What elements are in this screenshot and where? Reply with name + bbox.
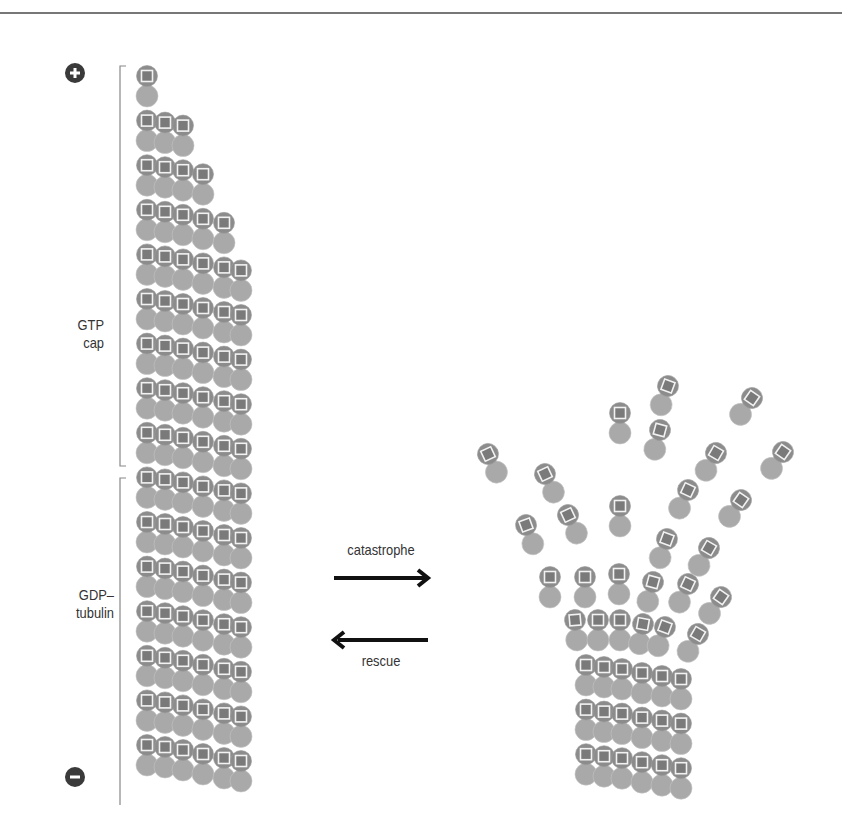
tubulin-dimer bbox=[563, 609, 589, 652]
tubulin-dimer bbox=[230, 438, 252, 480]
tubulin-dimer bbox=[192, 387, 214, 429]
tubulin-dimer bbox=[651, 755, 673, 797]
shrinking-microtubule bbox=[474, 372, 798, 799]
tubulin-dimer bbox=[230, 706, 252, 748]
tubulin-dimer bbox=[474, 440, 511, 487]
tubulin-dimer bbox=[670, 713, 692, 755]
tubulin-dimer bbox=[172, 517, 194, 559]
catastrophe-label: catastrophe bbox=[334, 541, 429, 558]
tubulin-dimer bbox=[192, 654, 214, 696]
gtp-cap-label-line2: cap bbox=[49, 334, 104, 352]
tubulin-dimer bbox=[670, 669, 692, 711]
tubulin-dimer bbox=[172, 606, 194, 648]
tubulin-dimer bbox=[531, 460, 568, 507]
tubulin-dimer bbox=[192, 342, 214, 384]
tubulin-dimer bbox=[691, 438, 731, 485]
tubulin-dimer bbox=[172, 740, 194, 782]
tubulin-dimer bbox=[213, 212, 235, 254]
tubulin-dimer bbox=[192, 521, 214, 563]
tubulin-dimer bbox=[172, 294, 194, 336]
tubulin-dimer bbox=[611, 703, 633, 745]
minus-end-icon bbox=[65, 767, 85, 787]
tubulin-dimer bbox=[230, 751, 252, 793]
tubulin-dimer bbox=[192, 208, 214, 250]
tubulin-dimer bbox=[192, 298, 214, 340]
tubulin-dimer bbox=[192, 610, 214, 652]
growing-microtubule bbox=[136, 66, 252, 793]
tubulin-dimer bbox=[172, 249, 194, 291]
tubulin-dimer bbox=[230, 349, 252, 391]
tubulin-dimer bbox=[714, 485, 756, 532]
tubulin-dimer bbox=[609, 403, 631, 445]
tubulin-dimer bbox=[192, 164, 214, 206]
gdp-tubulin-label-line2: tubulin bbox=[42, 604, 114, 622]
tubulin-dimer bbox=[230, 260, 252, 302]
tubulin-dimer bbox=[641, 417, 673, 463]
tubulin-dimer bbox=[631, 752, 653, 794]
tubulin-dimer bbox=[665, 570, 702, 617]
gtp-cap-label: GTP cap bbox=[49, 316, 104, 352]
tubulin-dimer bbox=[230, 617, 252, 659]
rescue-label: rescue bbox=[334, 652, 429, 669]
tubulin-dimer bbox=[651, 666, 673, 708]
tubulin-dimer bbox=[609, 610, 631, 652]
gtp-cap-label-line1: GTP bbox=[49, 316, 104, 334]
tubulin-dimer bbox=[539, 567, 561, 609]
tubulin-dimer bbox=[192, 699, 214, 741]
tubulin-dimer bbox=[172, 650, 194, 692]
tubulin-dimer bbox=[230, 483, 252, 525]
tubulin-dimer bbox=[172, 383, 194, 425]
tubulin-dimer bbox=[192, 253, 214, 295]
tubulin-dimer bbox=[554, 501, 591, 548]
tubulin-dimer bbox=[230, 305, 252, 347]
tubulin-dimer bbox=[670, 758, 692, 800]
tubulin-dimer bbox=[673, 619, 713, 666]
tubulin-dimer bbox=[230, 394, 252, 436]
tubulin-dimer bbox=[172, 338, 194, 380]
tubulin-dimer bbox=[631, 707, 653, 749]
tubulin-dimer bbox=[172, 160, 194, 202]
tubulin-dimer bbox=[172, 695, 194, 737]
tubulin-dimer bbox=[587, 610, 609, 652]
tubulin-dimer bbox=[608, 564, 630, 606]
tubulin-dimer bbox=[230, 572, 252, 614]
tubulin-dimer bbox=[611, 748, 633, 790]
tubulin-dimer bbox=[172, 427, 194, 469]
tubulin-dimer bbox=[574, 567, 596, 609]
tubulin-dimer bbox=[611, 659, 633, 701]
tubulin-dimer bbox=[172, 561, 194, 603]
tubulin-dimer bbox=[230, 528, 252, 570]
tubulin-dimer bbox=[230, 661, 252, 703]
tubulin-dimer bbox=[631, 663, 653, 705]
gdp-tubulin-bracket bbox=[120, 478, 126, 805]
gtp-cap-bracket bbox=[120, 66, 126, 466]
tubulin-dimer bbox=[647, 372, 682, 419]
tubulin-dimer bbox=[609, 496, 631, 538]
tubulin-dimer bbox=[136, 66, 158, 108]
plus-end-icon bbox=[65, 63, 85, 83]
catastrophe-arrow bbox=[334, 570, 428, 586]
tubulin-dimer bbox=[512, 511, 547, 558]
tubulin-dimer bbox=[651, 710, 673, 752]
gdp-tubulin-label-line1: GDP– bbox=[42, 586, 114, 604]
tubulin-dimer bbox=[192, 476, 214, 518]
tubulin-dimer bbox=[634, 569, 666, 615]
gdp-tubulin-label: GDP– tubulin bbox=[42, 586, 114, 622]
diagram-canvas bbox=[0, 0, 842, 830]
tubulin-dimer bbox=[694, 582, 736, 629]
tubulin-dimer bbox=[192, 565, 214, 607]
tubulin-dimer bbox=[756, 437, 798, 484]
tubulin-dimer bbox=[192, 744, 214, 786]
rescue-arrow bbox=[334, 632, 428, 648]
tubulin-dimer bbox=[172, 115, 194, 157]
tubulin-dimer bbox=[725, 383, 767, 430]
tubulin-dimer bbox=[684, 533, 724, 580]
tubulin-dimer bbox=[192, 431, 214, 473]
tubulin-dimer bbox=[665, 476, 702, 523]
tubulin-dimer bbox=[172, 472, 194, 514]
tubulin-dimer bbox=[172, 204, 194, 246]
tubulin-dimer bbox=[646, 525, 681, 572]
